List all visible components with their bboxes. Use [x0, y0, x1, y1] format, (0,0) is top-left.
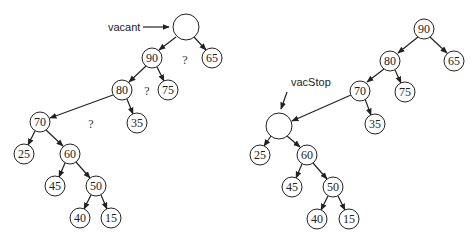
tree-node: 65: [202, 48, 222, 68]
vacstop-node: [266, 113, 292, 139]
edge: [129, 66, 146, 82]
svg-text:50: 50: [90, 179, 102, 193]
heap-diagram: vacant ? ? ? 90 65 80 75 70 35 25 60 45 …: [0, 0, 476, 243]
tree-node: 65: [444, 51, 464, 71]
svg-text:60: 60: [301, 148, 313, 162]
edge: [296, 164, 302, 178]
tree-node: 60: [297, 145, 317, 165]
tree-node: 90: [414, 19, 434, 39]
svg-text:40: 40: [74, 211, 86, 225]
edge: [321, 196, 328, 210]
svg-text:15: 15: [105, 211, 117, 225]
edge: [367, 69, 384, 82]
edge: [127, 99, 133, 114]
svg-text:80: 80: [116, 83, 128, 97]
tree-node: 25: [250, 145, 270, 165]
edge: [430, 37, 447, 53]
vacant-label: vacant: [108, 21, 140, 33]
tree-node: 35: [127, 113, 147, 133]
vacstop-pointer-arrow: [281, 92, 287, 109]
tree-node: 50: [323, 177, 343, 197]
edge: [365, 99, 371, 115]
edge: [313, 163, 327, 179]
tree-node: 35: [365, 114, 385, 134]
edge: [159, 37, 176, 50]
tree-node: 80: [112, 80, 132, 100]
tree-node: 50: [86, 176, 106, 196]
edge: [59, 163, 65, 177]
tree-node: 70: [30, 112, 50, 132]
tree-node: 70: [350, 81, 370, 101]
svg-text:35: 35: [369, 117, 381, 131]
svg-text:25: 25: [18, 147, 30, 161]
question-mark: ?: [182, 53, 187, 67]
right-tree: vacStop 90 80 65 70 75 35 25 60 45 50 40…: [250, 19, 464, 229]
edge: [76, 162, 90, 178]
edge: [264, 136, 271, 146]
edge: [395, 70, 401, 83]
svg-text:75: 75: [399, 85, 411, 99]
edge: [46, 130, 63, 146]
edge: [157, 67, 164, 81]
svg-text:90: 90: [146, 51, 158, 65]
edge: [292, 95, 351, 121]
tree-node: 90: [142, 48, 162, 68]
tree-node: 60: [60, 144, 80, 164]
svg-text:25: 25: [254, 148, 266, 162]
vacant-node: [173, 14, 199, 40]
tree-node: 15: [101, 208, 121, 228]
tree-node: 15: [339, 209, 359, 229]
edge: [194, 37, 206, 50]
edge: [398, 37, 418, 53]
tree-node: 75: [158, 80, 178, 100]
tree-node: 45: [282, 177, 302, 197]
svg-text:65: 65: [206, 51, 218, 65]
tree-node: 75: [395, 82, 415, 102]
edge: [50, 95, 113, 118]
question-mark: ?: [88, 117, 93, 131]
edge: [287, 136, 300, 147]
svg-text:75: 75: [162, 83, 174, 97]
svg-text:70: 70: [354, 84, 366, 98]
svg-text:45: 45: [49, 179, 61, 193]
svg-text:50: 50: [327, 180, 339, 194]
svg-text:70: 70: [34, 115, 46, 129]
svg-text:45: 45: [286, 180, 298, 194]
svg-text:65: 65: [448, 54, 460, 68]
tree-node: 80: [380, 51, 400, 71]
svg-text:60: 60: [64, 147, 76, 161]
tree-node: 40: [70, 208, 90, 228]
svg-text:40: 40: [311, 212, 323, 226]
svg-text:15: 15: [343, 212, 355, 226]
svg-text:35: 35: [131, 116, 143, 130]
edge: [101, 195, 107, 209]
edge: [28, 131, 35, 145]
svg-text:80: 80: [384, 54, 396, 68]
edge: [338, 196, 345, 210]
svg-text:90: 90: [418, 22, 430, 36]
tree-node: 45: [45, 176, 65, 196]
edge: [84, 195, 91, 209]
tree-node: 40: [307, 209, 327, 229]
question-mark: ?: [144, 84, 149, 98]
left-tree: vacant ? ? ? 90 65 80 75 70 35 25 60 45 …: [14, 14, 222, 228]
tree-node: 25: [14, 144, 34, 164]
vacstop-label: vacStop: [291, 76, 331, 88]
